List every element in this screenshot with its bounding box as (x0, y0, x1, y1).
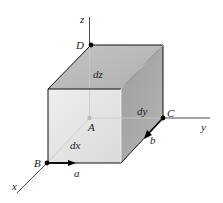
dimension-label-dx: dx (70, 139, 81, 151)
vector-label-a: a (74, 167, 80, 179)
point-label-A: A (87, 121, 95, 133)
point-B-marker (45, 161, 50, 166)
point-C-marker (161, 116, 166, 121)
point-A-marker (87, 116, 91, 120)
axis-label-x: x (11, 180, 17, 192)
cube-diagram: z y x D A C B dz dy dx a b (0, 0, 223, 203)
point-label-D: D (75, 39, 84, 51)
axis-label-y: y (200, 121, 206, 133)
point-label-C: C (167, 107, 175, 119)
dimension-label-dz: dz (93, 68, 104, 80)
axis-label-z: z (79, 13, 85, 25)
x-axis (17, 163, 47, 193)
front-face (48, 89, 121, 163)
point-D-marker (89, 43, 94, 48)
dimension-label-dy: dy (137, 105, 148, 117)
vector-label-b: b (150, 134, 156, 146)
point-label-B: B (34, 157, 41, 169)
diagram-svg: z y x D A C B dz dy dx a b (0, 0, 223, 203)
